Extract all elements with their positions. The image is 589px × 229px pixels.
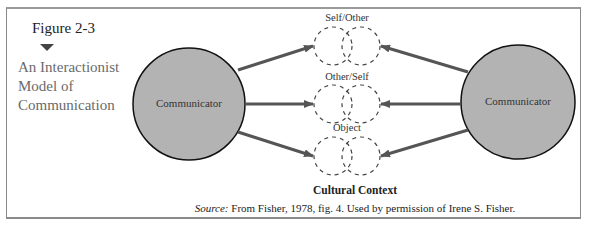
communicator-left-label: Communicator: [156, 97, 222, 109]
communicator-right-label: Communicator: [485, 95, 551, 107]
arrow-right-to-self-other: [381, 46, 468, 72]
target-object: [314, 137, 380, 175]
interaction-diagram: [0, 0, 589, 229]
source-text: From Fisher, 1978, fig. 4. Used by permi…: [229, 202, 516, 214]
arrow-left-to-object: [238, 132, 313, 156]
target-label-self-other: Self/Other: [325, 12, 369, 23]
arrow-left-to-self-other: [238, 46, 313, 70]
target-label-object: Object: [333, 122, 361, 133]
source-prefix: Source:: [195, 202, 229, 214]
target-label-other-self: Other/Self: [325, 71, 369, 82]
arrow-right-to-object: [381, 130, 468, 156]
target-other-self: [314, 85, 380, 123]
target-self-other: [314, 27, 380, 65]
cultural-context-label: Cultural Context: [313, 184, 397, 196]
source-caption: Source: From Fisher, 1978, fig. 4. Used …: [195, 202, 516, 214]
